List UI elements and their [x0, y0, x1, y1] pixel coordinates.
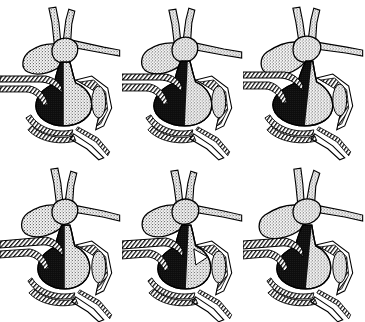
- right-oval-lumen: [211, 86, 225, 118]
- lower-conduit: [70, 127, 110, 160]
- illustration-panel: [0, 161, 122, 322]
- right-oval-lumen: [211, 251, 225, 283]
- upper-right-chamber: [293, 199, 321, 224]
- upper-right-chamber: [172, 199, 199, 224]
- lower-conduit: [189, 127, 229, 160]
- upper-right-chamber: [52, 199, 78, 224]
- illustration-panel: [243, 161, 365, 322]
- lateral-branch: [316, 42, 363, 56]
- upper-right-chamber: [172, 37, 198, 62]
- lower-conduit: [72, 290, 112, 322]
- lower-conduit: [311, 290, 351, 322]
- right-oval-lumen: [92, 86, 106, 118]
- right-oval-lumen: [333, 84, 347, 116]
- lateral-branch: [192, 205, 241, 221]
- illustration-panel: [122, 161, 244, 322]
- panel-drawing: [122, 161, 244, 322]
- right-oval-lumen: [92, 251, 106, 283]
- upper-right-chamber: [293, 36, 321, 62]
- illustration-panel: [122, 0, 244, 161]
- lower-conduit: [311, 127, 351, 160]
- panel-drawing: [0, 161, 122, 322]
- panel-grid: [0, 0, 365, 322]
- lateral-branch: [73, 205, 120, 221]
- figure-root: [0, 0, 365, 322]
- panel-drawing: [243, 0, 365, 161]
- upper-right-chamber: [52, 38, 78, 63]
- right-oval-lumen: [333, 251, 347, 283]
- illustration-panel: [243, 0, 365, 161]
- lower-conduit: [191, 290, 231, 322]
- lateral-branch: [315, 205, 363, 221]
- panel-drawing: [0, 0, 122, 161]
- panel-drawing: [122, 0, 244, 161]
- panel-drawing: [243, 161, 365, 322]
- illustration-panel: [0, 0, 122, 161]
- lateral-branch: [190, 42, 241, 58]
